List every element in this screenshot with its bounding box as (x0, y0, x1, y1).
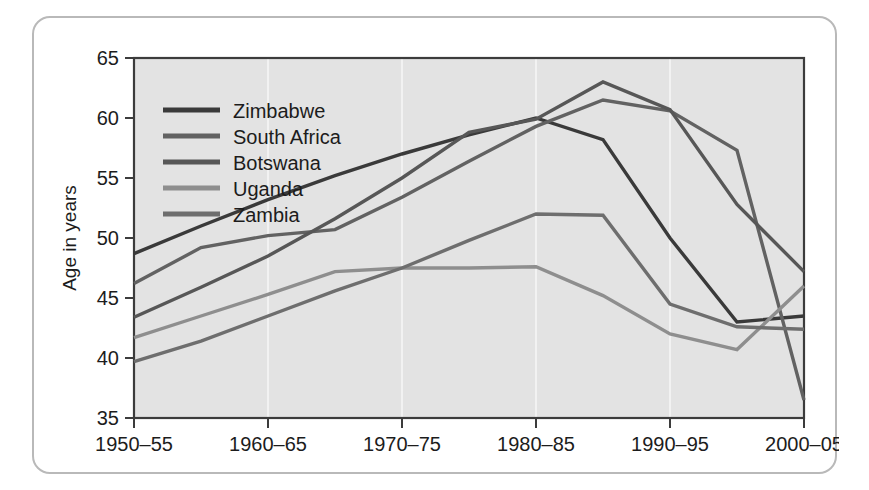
y-tick-label: 55 (97, 167, 119, 189)
x-tick-label: 1950–55 (95, 433, 173, 455)
legend-label[interactable]: Uganda (233, 178, 304, 200)
legend-label[interactable]: Zimbabwe (233, 100, 325, 122)
figure-card: 35404550556065 1950–551960–651970–751980… (32, 16, 837, 474)
x-tick-label: 1970–75 (363, 433, 441, 455)
y-tick-label: 65 (97, 47, 119, 69)
x-axis: 1950–551960–651970–751980–851990–952000–… (95, 418, 839, 455)
x-tick-label: 2000–05 (765, 433, 839, 455)
y-axis: 35404550556065 (97, 47, 134, 429)
legend-label[interactable]: South Africa (233, 126, 342, 148)
y-axis-title: Age in years (59, 185, 80, 291)
legend-label[interactable]: Botswana (233, 152, 322, 174)
x-tick-label: 1980–85 (497, 433, 575, 455)
y-tick-label: 40 (97, 347, 119, 369)
y-tick-label: 50 (97, 227, 119, 249)
x-tick-label: 1990–95 (631, 433, 709, 455)
y-tick-label: 35 (97, 407, 119, 429)
y-tick-label: 45 (97, 287, 119, 309)
x-tick-label: 1960–65 (229, 433, 307, 455)
line-chart: 35404550556065 1950–551960–651970–751980… (34, 18, 839, 476)
y-tick-label: 60 (97, 107, 119, 129)
legend-label[interactable]: Zambia (233, 204, 301, 226)
